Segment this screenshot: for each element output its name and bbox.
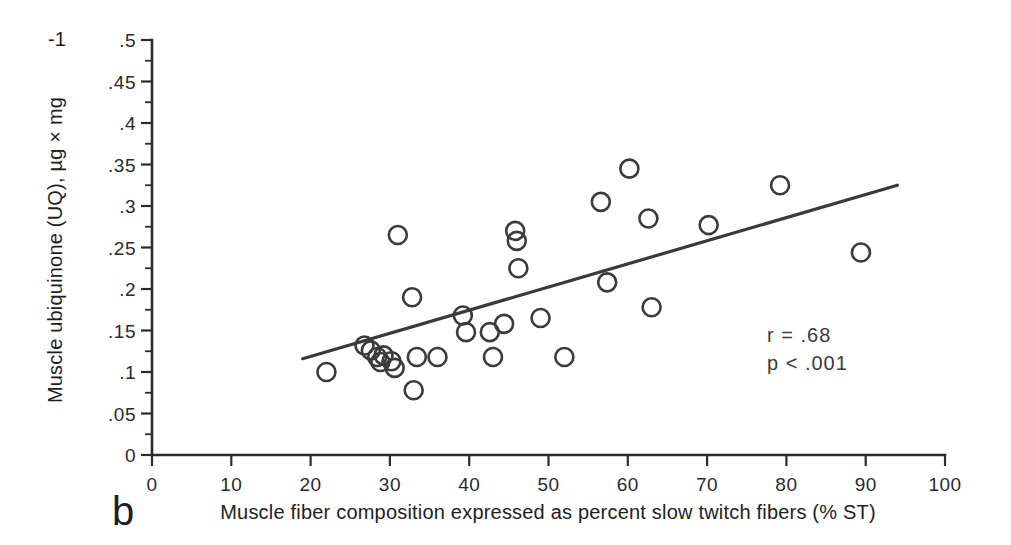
x-tick-label: 0 [146, 474, 157, 495]
data-point-marker [598, 273, 616, 291]
y-tick-label: .05 [108, 404, 136, 425]
panel-label-b: b [112, 489, 134, 533]
data-point-marker [495, 315, 513, 333]
x-axis-title: Muscle fiber composition expressed as pe… [220, 501, 876, 523]
figure-panel-b: 0102030405060708090100 0.05.1.15.2.25.3.… [0, 0, 1011, 545]
y-tick-label: .1 [119, 362, 136, 383]
axes [152, 40, 945, 455]
significance-annotation: p < .001 [767, 352, 848, 374]
y-tick-label: .3 [119, 196, 136, 217]
data-point-marker [317, 363, 335, 381]
x-tick-label: 20 [300, 474, 322, 495]
y-tick-label: .15 [108, 321, 136, 342]
data-point-marker [620, 160, 638, 178]
x-tick-label: 30 [379, 474, 401, 495]
y-tick-label: .45 [108, 72, 136, 93]
data-point-marker [639, 209, 657, 227]
x-tick-label: 50 [537, 474, 559, 495]
data-point-marker [403, 288, 421, 306]
x-tick-label: 70 [696, 474, 718, 495]
y-axis-title: Muscle ubiquinone (UQ), µg × mg [44, 97, 66, 403]
x-tick-label: 100 [928, 474, 961, 495]
data-point-marker [592, 193, 610, 211]
y-tick-label: 0 [125, 445, 136, 466]
x-tick-label: 10 [220, 474, 242, 495]
data-point-marker [852, 243, 870, 261]
data-point-marker [484, 348, 502, 366]
data-point-marker [408, 348, 426, 366]
scatter-plot: 0102030405060708090100 0.05.1.15.2.25.3.… [0, 0, 1011, 545]
data-point-marker [509, 259, 527, 277]
x-tick-labels: 0102030405060708090100 [146, 474, 961, 495]
x-tick-label: 80 [775, 474, 797, 495]
data-point-marker [389, 226, 407, 244]
data-point-marker [643, 298, 661, 316]
y-tick-label: .4 [119, 113, 136, 134]
y-tick-label: .2 [119, 279, 136, 300]
x-tick-label: 40 [458, 474, 480, 495]
x-tick-label: 90 [855, 474, 877, 495]
data-point-marker [405, 381, 423, 399]
data-point-marker [771, 176, 789, 194]
y-tick-label: .25 [108, 238, 136, 259]
y-axis-exponent-label: -1 [48, 28, 66, 50]
data-point-marker [532, 309, 550, 327]
data-point-marker [700, 216, 718, 234]
y-tick-label: .35 [108, 155, 136, 176]
data-point-marker [555, 348, 573, 366]
data-point-marker [428, 348, 446, 366]
y-tick-labels: 0.05.1.15.2.25.3.35.4.45.5 [108, 30, 136, 466]
x-tick-label: 60 [617, 474, 639, 495]
y-tick-label: .5 [119, 30, 136, 51]
tick-marks [141, 40, 945, 466]
data-point-marker [454, 307, 472, 325]
correlation-annotation: r = .68 [767, 324, 831, 346]
data-point-marker [457, 323, 475, 341]
